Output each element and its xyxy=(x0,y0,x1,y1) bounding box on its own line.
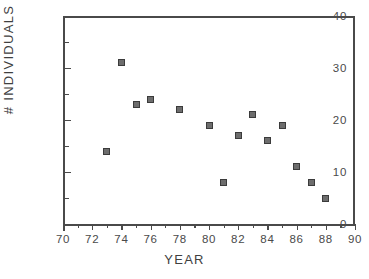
data-point xyxy=(147,96,154,103)
x-tick-minor xyxy=(224,224,225,228)
x-tick-label: 84 xyxy=(260,233,274,245)
x-tick-major xyxy=(180,224,181,230)
x-tick-major xyxy=(326,224,327,230)
y-tick-label: 30 xyxy=(333,62,347,74)
x-tick-label: 76 xyxy=(143,233,157,245)
x-tick-minor xyxy=(165,224,166,228)
x-tick-major xyxy=(267,224,268,230)
x-axis-title: YEAR xyxy=(0,252,369,267)
x-tick-label: 82 xyxy=(231,233,245,245)
data-point xyxy=(264,137,271,144)
x-tick-minor xyxy=(107,224,108,228)
data-point xyxy=(293,163,300,170)
y-tick-minor xyxy=(65,198,69,199)
x-tick-minor xyxy=(282,224,283,228)
y-tick-label: 20 xyxy=(333,114,347,126)
y-tick-minor xyxy=(65,42,69,43)
x-tick-label: 80 xyxy=(202,233,216,245)
data-point xyxy=(133,101,140,108)
x-tick-major xyxy=(238,224,239,230)
scatter-chart: 7072747678808284868890 010203040 YEAR # … xyxy=(0,0,369,279)
x-tick-minor xyxy=(78,224,79,228)
y-tick-major xyxy=(65,224,71,225)
x-tick-major xyxy=(151,224,152,230)
x-tick-label: 88 xyxy=(319,233,333,245)
data-point xyxy=(249,111,256,118)
x-tick-major xyxy=(355,224,356,230)
plot-frame-top xyxy=(63,16,355,18)
data-point xyxy=(206,122,213,129)
y-tick-major xyxy=(65,120,71,121)
y-tick-label: 0 xyxy=(340,218,347,230)
y-tick-major xyxy=(65,16,71,17)
data-point xyxy=(118,59,125,66)
y-tick-minor xyxy=(65,94,69,95)
x-tick-minor xyxy=(194,224,195,228)
y-tick-minor xyxy=(65,146,69,147)
x-tick-label: 86 xyxy=(289,233,303,245)
x-tick-minor xyxy=(253,224,254,228)
x-tick-label: 78 xyxy=(173,233,187,245)
x-tick-label: 74 xyxy=(114,233,128,245)
y-tick-major xyxy=(65,172,71,173)
y-tick-label: 10 xyxy=(333,166,347,178)
plot-area: 7072747678808284868890 010203040 xyxy=(63,16,355,225)
data-point xyxy=(308,179,315,186)
x-tick-major xyxy=(121,224,122,230)
x-tick-major xyxy=(297,224,298,230)
data-point xyxy=(220,179,227,186)
x-tick-label: 72 xyxy=(85,233,99,245)
data-point xyxy=(176,106,183,113)
data-point xyxy=(103,148,110,155)
plot-frame-right xyxy=(353,16,355,225)
data-point xyxy=(322,195,329,202)
x-tick-minor xyxy=(311,224,312,228)
y-tick-major xyxy=(65,68,71,69)
y-tick-label: 40 xyxy=(333,10,347,22)
data-point xyxy=(235,132,242,139)
x-tick-label: 70 xyxy=(56,233,70,245)
x-tick-major xyxy=(209,224,210,230)
x-tick-label: 90 xyxy=(348,233,362,245)
data-point xyxy=(279,122,286,129)
x-tick-major xyxy=(92,224,93,230)
y-axis-title: # INDIVIDUALS xyxy=(1,0,16,160)
x-tick-minor xyxy=(136,224,137,228)
